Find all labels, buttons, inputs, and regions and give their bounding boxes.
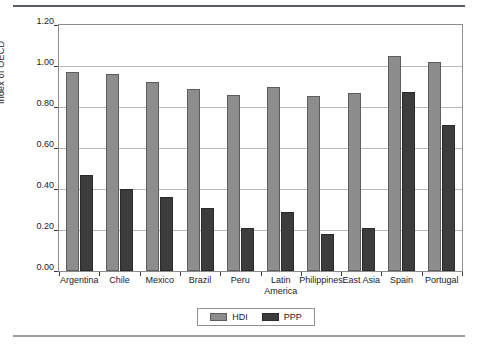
y-axis-tick-label: 1.00 [10, 58, 54, 67]
bar-ppp-portugal [442, 125, 455, 271]
y-axis-tick-mark [54, 271, 58, 272]
legend-swatch-ppp [262, 313, 279, 321]
y-axis-title: Index of OECD [0, 41, 6, 104]
bar-hdi-spain [388, 56, 401, 271]
bar-hdi-brazil [187, 89, 200, 271]
legend-item-hdi: HDI [210, 313, 248, 322]
bottom-rule [13, 335, 465, 337]
legend-item-ppp: PPP [262, 313, 302, 322]
bar-ppp-peru [241, 228, 254, 271]
legend-label-hdi: HDI [232, 313, 248, 322]
y-axis-tick-label: 0.40 [10, 181, 54, 190]
y-axis-tick-label: 0.60 [10, 140, 54, 149]
y-axis-tick-label: 0.20 [10, 222, 54, 231]
bars-layer [59, 25, 462, 271]
y-axis-tick-label: 1.20 [10, 17, 54, 26]
y-axis-tick-label: 0.00 [10, 263, 54, 272]
bar-hdi-chile [106, 74, 119, 271]
legend-label-ppp: PPP [284, 313, 302, 322]
figure-page: Index of OECD 1.201.000.800.600.400.200.… [0, 0, 483, 347]
bar-ppp-latin-america [281, 212, 294, 271]
x-axis-tick-label: Portugal [416, 275, 468, 286]
bar-ppp-east-asia [362, 228, 375, 271]
bar-ppp-brazil [201, 208, 214, 271]
bar-ppp-mexico [160, 197, 173, 271]
y-axis-tick-mark [54, 230, 58, 231]
y-axis-tick-mark [54, 66, 58, 67]
bar-hdi-east-asia [348, 93, 361, 271]
x-axis-tick-labels: ArgentinaChileMexicoBrazilPeruLatin Amer… [59, 275, 462, 309]
y-axis-tick-mark [54, 107, 58, 108]
bar-hdi-portugal [428, 62, 441, 271]
y-axis-tick-mark [54, 148, 58, 149]
bar-hdi-latin-america [267, 87, 280, 272]
bar-hdi-argentina [66, 72, 79, 271]
bar-ppp-chile [120, 189, 133, 271]
top-rule [13, 5, 465, 7]
bar-ppp-spain [402, 92, 415, 271]
bar-hdi-mexico [146, 82, 159, 271]
y-axis-tick-mark [54, 189, 58, 190]
y-axis-tick-label: 0.80 [10, 99, 54, 108]
chart-legend: HDI PPP [197, 308, 315, 326]
bar-hdi-philippines [307, 96, 320, 271]
bar-ppp-argentina [80, 175, 93, 271]
y-axis-tick-mark [54, 25, 58, 26]
bar-hdi-peru [227, 95, 240, 271]
legend-swatch-hdi [210, 313, 227, 321]
bar-ppp-philippines [321, 234, 334, 271]
